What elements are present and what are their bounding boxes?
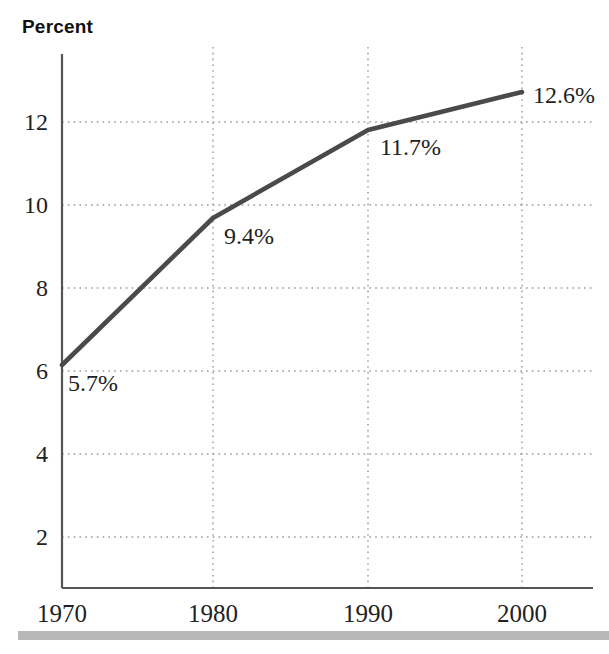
line-chart-plot xyxy=(0,0,609,654)
x-axis-tick-1970: 1970 xyxy=(17,600,107,628)
y-axis-tick-8: 8 xyxy=(4,275,48,302)
data-line-series-percent xyxy=(62,92,522,365)
footer-divider-bar xyxy=(18,631,609,640)
y-axis-tick-12: 12 xyxy=(4,109,48,136)
y-axis-tick-10: 10 xyxy=(4,192,48,219)
y-axis-tick-4: 4 xyxy=(4,441,48,468)
data-label-2000: 12.6% xyxy=(533,82,595,109)
data-label-1980: 9.4% xyxy=(224,223,274,250)
chart-page: Percent 12 10 8 6 4 2 1970 1980 1990 200… xyxy=(0,0,609,654)
x-axis-tick-1980: 1980 xyxy=(168,600,258,628)
y-axis-tick-2: 2 xyxy=(4,524,48,551)
data-label-1990: 11.7% xyxy=(380,134,441,161)
data-label-1970: 5.7% xyxy=(68,370,118,397)
horizontal-gridlines xyxy=(62,122,593,537)
x-axis-tick-2000: 2000 xyxy=(477,600,567,628)
y-axis-tick-6: 6 xyxy=(4,358,48,385)
x-axis-tick-1990: 1990 xyxy=(323,600,413,628)
